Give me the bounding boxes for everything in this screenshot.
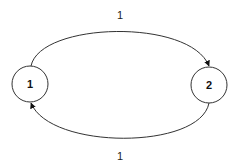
edge-label-top: 1: [117, 9, 123, 21]
node-1-label: 1: [27, 78, 33, 90]
node-1: 1: [12, 66, 48, 102]
edge-label-bottom: 1: [117, 150, 123, 162]
graph-canvas: 1 1 1 2: [0, 0, 238, 167]
edge-1-to-2: [31, 31, 209, 66]
node-2-label: 2: [206, 79, 212, 91]
node-2: 2: [191, 67, 227, 103]
edge-2-to-1: [31, 103, 209, 138]
